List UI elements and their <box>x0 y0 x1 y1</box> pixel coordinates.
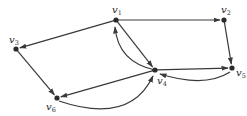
edge-v5-to-v4 <box>160 72 230 81</box>
node-v4 <box>152 67 157 72</box>
edge-v6-to-v4 <box>59 76 153 109</box>
edge-v4-to-v5 <box>157 68 228 70</box>
node-label-v2: v2 <box>221 4 231 17</box>
edges <box>17 20 231 109</box>
node-v5 <box>229 65 234 70</box>
edge-v4-to-v1 <box>115 27 155 70</box>
node-v6 <box>54 95 59 100</box>
node-v2 <box>221 17 226 22</box>
node-label-v5: v5 <box>236 67 246 80</box>
node-label-v1: v1 <box>112 4 122 17</box>
edge-v4-to-v6 <box>61 71 153 97</box>
edge-v2-to-v5 <box>224 22 231 64</box>
node-v1 <box>113 17 118 22</box>
directed-graph: v1v2v3v4v5v6 <box>0 0 247 116</box>
node-label-v6: v6 <box>46 101 56 114</box>
node-label-v4: v4 <box>157 75 167 88</box>
edge-v1-to-v4 <box>117 22 152 67</box>
node-v3 <box>13 46 18 51</box>
node-label-v3: v3 <box>9 34 19 47</box>
edge-v3-to-v6 <box>17 51 54 95</box>
edge-v1-to-v3 <box>20 21 114 48</box>
